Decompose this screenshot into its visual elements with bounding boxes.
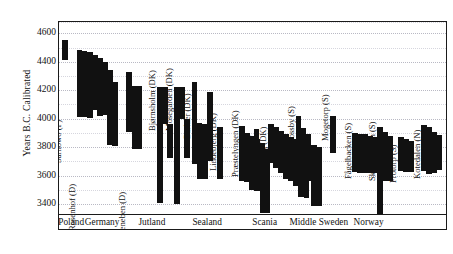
y-tick-label: 3600 xyxy=(22,170,56,180)
gridline xyxy=(59,62,446,63)
site-label: Lindebjerg (DK) xyxy=(209,113,218,171)
site-label: Kotedalen (N) xyxy=(413,130,422,179)
y-axis-tick-labels: 4600440042004000380036003400 xyxy=(16,0,56,254)
site-label: Skogsmossen (S) xyxy=(368,122,377,181)
gridline-minor xyxy=(59,190,446,191)
site-label: Præstelyngen (DK) xyxy=(231,110,240,177)
site-label: Bjørnsholm (DK) xyxy=(148,70,157,131)
range-bar xyxy=(316,147,322,206)
range-bar xyxy=(330,116,336,153)
gridline-minor xyxy=(59,22,446,23)
category-axis-labels: PolandGermanyJutlandSealandScaniaMiddle … xyxy=(59,214,446,229)
site-label: Mosegården (DK) xyxy=(165,68,174,131)
gridline-minor xyxy=(59,76,446,77)
gridline xyxy=(59,33,446,34)
gridline-minor xyxy=(59,48,446,49)
y-tick-label: 4400 xyxy=(22,56,56,66)
y-tick-label: 4200 xyxy=(22,84,56,94)
range-bar xyxy=(137,86,143,149)
plot-area: Sarnowo (P)Rosenhof (D)Siggeneben (D)Bjø… xyxy=(59,22,446,229)
y-tick-label: 4000 xyxy=(22,113,56,123)
y-tick-label: 4600 xyxy=(22,27,56,37)
category-label: Norway xyxy=(324,216,414,229)
range-bar xyxy=(436,135,442,170)
site-label: Øgårde (DK) xyxy=(245,135,254,181)
site-label: Fågelbacken (S) xyxy=(344,123,353,179)
y-tick-label: 3800 xyxy=(22,141,56,151)
y-tick-label: 3400 xyxy=(22,198,56,208)
site-label: Muldbjerg (DK) xyxy=(259,127,268,183)
plot-frame: Sarnowo (P)Rosenhof (D)Siggeneben (D)Bjø… xyxy=(58,21,447,230)
site-label: Mogetorp (S) xyxy=(321,94,330,141)
chart-figure: Years B.C. Calibrated 460044004200400038… xyxy=(0,0,453,254)
site-label: Frotorp (S) xyxy=(389,145,398,183)
range-bar xyxy=(112,82,118,146)
site-label: Mossby (S) xyxy=(287,106,296,146)
site-label: Sarnowo (P) xyxy=(59,120,63,163)
range-bar xyxy=(62,40,68,61)
site-label: Barkær (DK) xyxy=(183,93,192,139)
